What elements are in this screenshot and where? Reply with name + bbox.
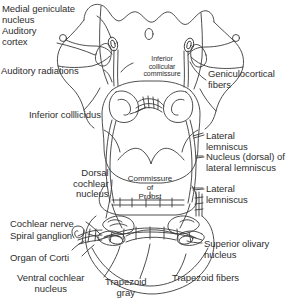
left-dcn-detail-2 — [110, 224, 127, 226]
label-trapezoid-gray: Trapezoid gray — [105, 277, 146, 298]
auditory-pathway-figure: Medial geniculate nucleus Auditory corte… — [0, 0, 292, 306]
label-trapezoid-fibers: Trapezoid fibers — [172, 273, 239, 284]
label-auditory-radiations: Auditory radiations — [1, 66, 79, 77]
right-ic-swirl — [171, 99, 184, 115]
commissure-hatch-2 — [148, 96, 149, 108]
label-lateral-lemniscus-lower: Lateral lemniscus — [206, 184, 248, 205]
label-geniculocortical-fibers: Geniculocortical fibers — [208, 69, 290, 90]
left-ic-swirl — [118, 99, 131, 115]
label-lateral-lemniscus-upper: Lateral lemniscus — [206, 131, 248, 152]
label-cochlear-nerve: Cochlear nerve — [10, 219, 74, 230]
leader-organ-of-corti — [82, 245, 94, 256]
right-inferior-colliculus — [163, 91, 192, 123]
commissure-hatch-3 — [153, 97, 154, 108]
label-superior-olivary-nucleus: Superior olivary nucleus — [204, 239, 269, 260]
label-medial-geniculate-nucleus: Medial geniculate nucleus — [2, 4, 75, 25]
label-commissure-of-probst: Commissure of Probst — [121, 175, 179, 201]
right-lateral-lemniscus-upper-2 — [186, 121, 192, 203]
label-spiral-ganglion: Spiral ganglion — [10, 231, 72, 242]
midline-ventricle — [145, 29, 153, 40]
label-inferior-colliculus: Inferior colllicidus — [29, 110, 101, 121]
left-vessel-circle — [60, 35, 67, 42]
label-inferior-collicular-commissure: Inferior collicular commissure — [136, 55, 188, 78]
left-dcn-detail-1 — [108, 220, 122, 222]
midbrain-outline — [102, 81, 200, 183]
right-hemisphere-inner — [194, 13, 202, 89]
cochlear-nerve-hatch-2 — [88, 229, 90, 242]
label-ventral-cochlear-nucleus: Ventral cochlear nucleus — [17, 273, 84, 294]
leader-icc — [121, 63, 133, 72]
label-dorsal-cochlear-nucleus: Dorsal cochlear nucleus — [73, 168, 109, 200]
left-insula-fold — [84, 88, 100, 110]
right-insula-fold — [200, 89, 216, 111]
right-dcn-detail-1 — [180, 220, 194, 222]
right-temporal-lobe — [188, 41, 234, 55]
right-superior-olivary-nucleus — [178, 235, 193, 246]
leader-trapezoid-gray — [140, 244, 150, 278]
interpeduncular-notch — [118, 148, 184, 164]
leader-auditory-cortex — [57, 43, 95, 55]
cortex-outline-top — [84, 4, 214, 24]
label-nucleus-dorsal-of-lateral-lemniscus: Nucleus (dorsal) of lateral lemniscus — [206, 152, 285, 173]
label-auditory-cortex: Auditory cortex — [2, 26, 36, 47]
label-organ-of-corti: Organ of Corti — [10, 253, 69, 264]
leader-spiral-ganglion — [88, 234, 99, 238]
right-vessel-circle — [233, 35, 240, 42]
left-inferior-colliculus — [109, 91, 138, 123]
decussation-right-to-left — [126, 237, 176, 242]
organ-of-corti-tick — [72, 241, 84, 250]
leader-medial-geniculate — [97, 16, 111, 38]
